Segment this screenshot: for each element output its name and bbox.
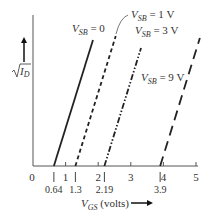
x-tick-label: 1 bbox=[63, 171, 69, 183]
x-tick-label: 4 bbox=[161, 171, 167, 183]
threshold-labels: 0.641.32.193.9 bbox=[45, 184, 166, 195]
series-lines bbox=[54, 36, 200, 166]
label-vsb-1v: VSB = 1 V bbox=[131, 8, 174, 23]
x-ticks bbox=[66, 162, 196, 166]
threshold-label: 0.64 bbox=[45, 184, 63, 195]
x-tick-labels: 012345 bbox=[29, 171, 199, 183]
x-tick-label: 5 bbox=[193, 171, 199, 183]
label-vsb-3v: VSB = 3 V bbox=[135, 24, 178, 39]
threshold-marks bbox=[54, 172, 160, 182]
series-line bbox=[54, 40, 93, 166]
x-tick-label: 0 bbox=[29, 171, 35, 183]
threshold-label: 3.9 bbox=[154, 184, 167, 195]
label-leader-1v bbox=[116, 15, 128, 34]
series-line bbox=[160, 38, 200, 166]
threshold-label: 1.3 bbox=[69, 184, 82, 195]
series-labels: VSB = 0 VSB = 1 V VSB = 3 V VSB = 9 V bbox=[72, 8, 184, 86]
svg-text:ID: ID bbox=[19, 65, 30, 79]
label-vsb-9v: VSB = 9 V bbox=[141, 71, 184, 86]
series-line bbox=[104, 48, 141, 166]
threshold-label: 2.19 bbox=[96, 184, 114, 195]
x-tick-label: 3 bbox=[128, 171, 134, 183]
x-tick-label: 2 bbox=[95, 171, 101, 183]
chart: 012345 0.641.32.193.9 VSB = 0 VSB = 1 V … bbox=[0, 0, 210, 219]
y-axis-label: ID bbox=[12, 64, 31, 79]
x-axis-label: VGS (volts) bbox=[81, 197, 129, 212]
label-vsb-0: VSB = 0 bbox=[72, 22, 105, 37]
